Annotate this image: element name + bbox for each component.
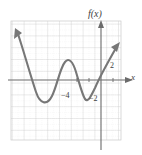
tick-label-neg2: −2 xyxy=(89,95,98,103)
graph-canvas xyxy=(0,0,142,155)
graph-figure: f(x) x −4 −2 2 xyxy=(0,0,142,155)
tick-label-neg4: −4 xyxy=(61,92,70,100)
x-axis-label: x xyxy=(131,73,135,82)
y-axis-label: f(x) xyxy=(88,9,102,19)
tick-label-pos2: 2 xyxy=(110,62,114,70)
